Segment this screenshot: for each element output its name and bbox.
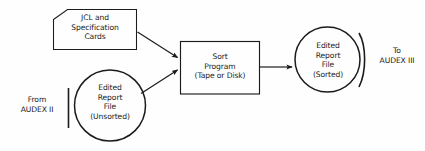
- connector-unsorted-to-sort: [141, 70, 178, 94]
- flowchart-diagram: JCL and Specification Cards Sort Program…: [0, 0, 425, 151]
- sorted-file-shape: [295, 27, 360, 92]
- unsorted-file-shape: [75, 70, 146, 141]
- connector-cards-to-sort: [138, 32, 178, 58]
- sort-program-shape: [181, 42, 260, 95]
- input-cards-shape: [54, 10, 137, 50]
- flowchart-canvas: [0, 0, 425, 151]
